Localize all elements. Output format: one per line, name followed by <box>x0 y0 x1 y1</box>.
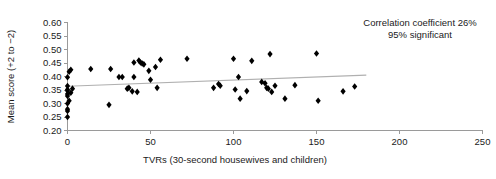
data-point-marker <box>231 55 236 62</box>
data-point-marker <box>314 50 319 57</box>
data-point-marker <box>131 74 136 81</box>
data-point-marker <box>316 98 321 105</box>
data-point-marker <box>65 74 70 81</box>
data-point-marker <box>282 95 287 102</box>
data-point-marker <box>272 82 277 89</box>
data-point-marker <box>65 114 70 121</box>
x-axis-title: TVRs (30-second housewives and children) <box>143 154 327 165</box>
x-axis-tick-labels: 050100150200250 <box>65 136 491 147</box>
data-point-marker <box>352 83 357 90</box>
data-point-marker <box>238 95 243 102</box>
y-axis-title: Mean score (+2 to −2) <box>5 30 16 123</box>
annotation-significance: 95% significant <box>388 29 452 40</box>
x-axis-tick-marks <box>68 131 483 135</box>
y-tick-label: 0.30 <box>43 98 62 109</box>
y-tick-label: 0.40 <box>43 71 62 82</box>
y-tick-label: 0.60 <box>43 17 62 28</box>
data-point-marker <box>184 55 189 62</box>
y-tick-label: 0.20 <box>43 125 62 136</box>
data-point-marker <box>249 58 254 65</box>
x-tick-label: 0 <box>65 136 70 147</box>
data-point-marker <box>340 88 345 95</box>
x-tick-label: 100 <box>226 136 242 147</box>
annotation-correlation-coefficient: Correlation coefficient 26% <box>363 17 477 28</box>
data-point-marker <box>120 74 125 81</box>
data-points-group <box>65 50 357 120</box>
y-tick-label: 0.55 <box>43 30 62 41</box>
data-point-marker <box>106 102 111 109</box>
x-tick-label: 50 <box>145 136 156 147</box>
data-point-marker <box>158 56 163 63</box>
data-point-marker <box>267 51 272 58</box>
data-point-marker <box>88 66 93 73</box>
data-point-marker <box>148 76 153 83</box>
y-axis-tick-labels: 0.200.250.300.350.400.450.500.550.60 <box>43 17 62 136</box>
data-point-marker <box>108 66 113 73</box>
data-point-marker <box>131 59 136 66</box>
x-tick-label: 250 <box>475 136 491 147</box>
data-point-marker <box>153 64 158 71</box>
x-tick-label: 200 <box>392 136 408 147</box>
data-point-marker <box>65 83 70 90</box>
scatter-chart-figure: 0.200.250.300.350.400.450.500.550.60 050… <box>0 0 496 179</box>
data-point-marker <box>233 86 238 93</box>
data-point-marker <box>135 89 140 96</box>
y-tick-label: 0.25 <box>43 111 62 122</box>
chart-canvas: 0.200.250.300.350.400.450.500.550.60 050… <box>0 0 496 179</box>
y-tick-label: 0.50 <box>43 44 62 55</box>
x-tick-label: 150 <box>309 136 325 147</box>
data-point-marker <box>244 88 249 95</box>
y-tick-label: 0.45 <box>43 57 62 68</box>
data-point-marker <box>292 82 297 89</box>
data-point-marker <box>211 85 216 92</box>
data-point-marker <box>146 68 151 75</box>
y-tick-label: 0.35 <box>43 84 62 95</box>
data-point-marker <box>155 85 160 92</box>
